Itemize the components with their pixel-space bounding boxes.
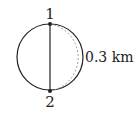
point-1-label: 1 [45,5,55,23]
distance-label: 0.3 km [85,49,133,65]
point-2-label: 2 [45,93,55,111]
circle-diagram: 1 2 0.3 km [0,0,139,117]
